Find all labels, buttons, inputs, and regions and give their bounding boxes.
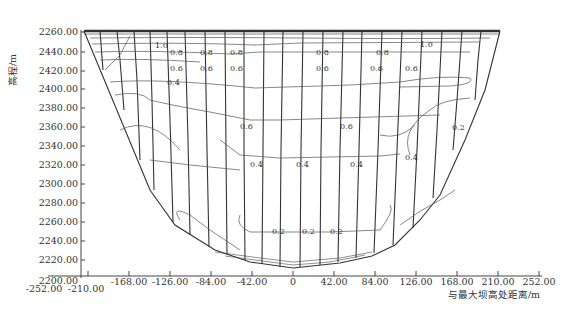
y-tick-label: 2340.00 — [39, 140, 78, 151]
x-tick-label: -84.00 — [196, 276, 226, 287]
contour-label: 0.6 — [405, 64, 418, 73]
contour-label: 0.2 — [330, 227, 343, 236]
y-tick-label: 2400.00 — [39, 83, 78, 94]
y-tick-label: 2320.00 — [39, 159, 78, 170]
contour-label: 0.6 — [170, 64, 183, 73]
y-ticks — [81, 32, 85, 260]
x-tick-label: -252.00 — [26, 283, 62, 294]
contour-label: 0.4 — [250, 160, 263, 169]
y-tick-labels: 2260.00 2440.00 2420.00 2400.00 2380.00 … — [39, 26, 78, 286]
contour-label: 0.2 — [272, 227, 285, 236]
contour-label: 0.4 — [405, 153, 418, 162]
contour-labels: 1.0 0.8 0.8 0.8 0.8 0.8 1.0 0.6 0.6 0.6 … — [155, 40, 465, 236]
x-tick-label: 0 — [290, 276, 296, 287]
contour-label: 0.6 — [316, 64, 329, 73]
contour-label: 0.6 — [200, 64, 213, 73]
y-tick-label: 2380.00 — [39, 102, 78, 113]
x-tick-label: 210.00 — [481, 276, 514, 287]
contour-label: 0.8 — [316, 48, 329, 57]
contour-label: 0.6 — [340, 122, 353, 131]
y-tick-label: 2220.00 — [39, 254, 78, 265]
contour-label: 0.6 — [230, 64, 243, 73]
x-tick-label: -210.00 — [68, 283, 104, 294]
x-tick-label: 42.00 — [320, 276, 347, 287]
contour-label: 0.8 — [200, 48, 213, 57]
y-tick-label: 2300.00 — [39, 178, 78, 189]
y-tick-label: 2420.00 — [39, 65, 78, 76]
valley-profile — [84, 31, 500, 268]
contour-label: 0.2 — [452, 123, 465, 132]
contour-label: 0.2 — [302, 227, 315, 236]
x-tick-label: 252.00 — [522, 276, 555, 287]
x-tick-label: -168.00 — [111, 276, 147, 287]
y-tick-label: 2240.00 — [39, 235, 78, 246]
x-tick-label: 126.00 — [399, 276, 432, 287]
contour-label: 1.0 — [420, 40, 433, 49]
y-axis-title: 高程/m — [7, 54, 18, 86]
y-tick-label: 2360.00 — [39, 121, 78, 132]
contour-chart: 2260.00 2440.00 2420.00 2400.00 2380.00 … — [0, 0, 576, 315]
contour-label: 0.4 — [296, 160, 309, 169]
contour-label: 0.8 — [170, 48, 183, 57]
contour-label: 0.8 — [230, 48, 243, 57]
contour-label: 1.0 — [155, 41, 168, 50]
section-lines — [100, 31, 481, 267]
y-tick-label: 2280.00 — [39, 197, 78, 208]
contour-label: 0.6 — [240, 122, 253, 131]
x-tick-label: -126.00 — [152, 276, 188, 287]
axes — [48, 30, 542, 278]
contour-label: 0.4 — [350, 160, 363, 169]
contour-label: 0.8 — [376, 48, 389, 57]
x-tick-label: 168.00 — [440, 276, 473, 287]
contour-lines — [90, 36, 490, 250]
y-tick-label: 2260.00 — [39, 26, 78, 37]
contour-label: 0.6 — [370, 64, 383, 73]
plot-area — [84, 31, 500, 268]
y-tick-label: 2260.00 — [39, 216, 78, 227]
x-axis-title: 与最大坝高处距离/m — [448, 289, 540, 300]
x-tick-label: 84.00 — [361, 276, 388, 287]
contour-label: 0.4 — [167, 78, 180, 87]
y-tick-label: 2440.00 — [39, 46, 78, 57]
x-tick-label: -42.00 — [237, 276, 267, 287]
